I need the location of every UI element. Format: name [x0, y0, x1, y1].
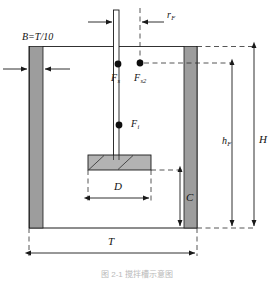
hf-sub: F — [227, 140, 231, 147]
clearance-label: C — [186, 192, 193, 203]
construction-dashes — [29, 8, 256, 256]
tank-diameter-label: T — [108, 236, 114, 247]
point-fs2-marker — [137, 60, 144, 67]
impeller-diameter-label: D — [114, 181, 122, 192]
fs2-sub: s2 — [140, 77, 146, 84]
point-fs-marker — [115, 61, 122, 68]
force-second-label: Fs2 — [134, 73, 146, 83]
rf-sub: F — [171, 14, 175, 21]
impeller-shaft — [114, 10, 120, 160]
liquid-height-label: hF — [222, 136, 231, 146]
fs-sub: s — [117, 77, 120, 84]
figure-caption: 图 2-1 搅拌槽示意图 — [0, 268, 274, 280]
point-fi-marker — [116, 122, 123, 129]
impeller-disc — [88, 155, 151, 170]
tank-diagram-svg — [0, 0, 274, 282]
tank-height-label: H — [259, 134, 267, 145]
fi-sub: i — [137, 123, 139, 130]
baffle-width-label: B=T/10 — [22, 32, 53, 42]
baffle-left — [30, 47, 44, 229]
force-shaft-label: Fs — [111, 73, 120, 83]
figure-canvas: B=T/10 rF Fs Fs2 Fi D C hF H T 图 2-1 搅拌槽… — [0, 0, 274, 282]
radial-position-label: rF — [167, 10, 175, 20]
force-impeller-label: Fi — [131, 119, 139, 129]
